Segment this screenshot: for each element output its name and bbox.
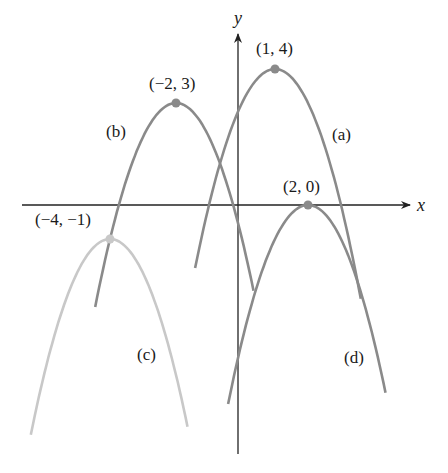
parabola-c — [31, 239, 188, 435]
vertex-label-d: (2, 0) — [283, 177, 320, 196]
vertex-label-a: (1, 4) — [256, 39, 293, 58]
parabola-d — [228, 205, 385, 404]
curve-label-a: (a) — [332, 125, 351, 144]
parabola-diagram: x y (a) (b) (c) (d) (1, 4) (−2, 3) (−4, … — [0, 0, 448, 473]
curve-label-d: (d) — [344, 348, 364, 367]
vertex-label-b: (−2, 3) — [149, 74, 195, 93]
y-axis-label: y — [232, 8, 242, 28]
parabola-a — [195, 69, 361, 299]
vertex-label-c: (−4, −1) — [35, 210, 91, 229]
vertex-point-d — [304, 201, 313, 210]
curve-label-b: (b) — [106, 122, 126, 141]
vertex-point-b — [172, 99, 181, 108]
vertex-point-c — [106, 235, 115, 244]
vertex-point-a — [271, 65, 280, 74]
x-axis-label: x — [416, 195, 425, 215]
curve-label-c: (c) — [137, 345, 156, 364]
